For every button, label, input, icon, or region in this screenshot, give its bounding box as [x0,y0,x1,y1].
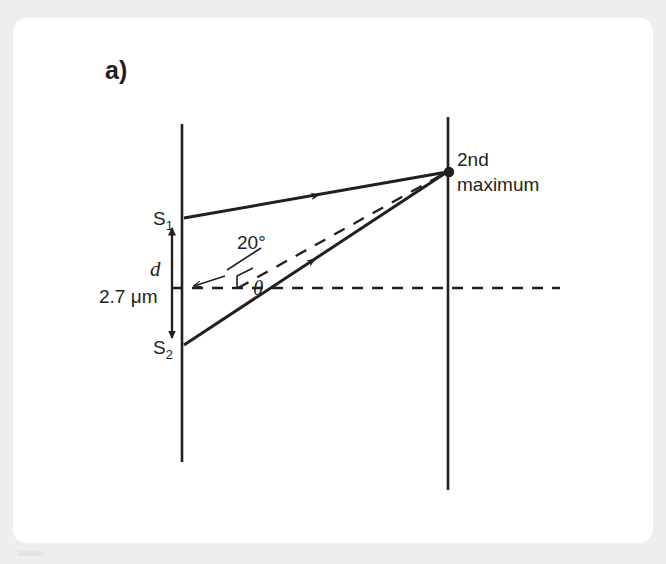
angle-value-label: 20° [237,232,266,253]
separation-symbol-label: d [150,257,161,281]
maximum-label-line-2: maximum [457,174,539,195]
page-edge-artifact [18,551,44,556]
ray-from-source-2 [184,172,447,345]
source-1-label: S1 [153,208,173,233]
separation-value-label: 2.7 μm [99,286,157,307]
page-background: a) S1 [0,0,666,564]
maximum-label-line-1: 2nd [457,149,489,170]
physics-diagram: a) S1 [13,18,653,543]
axis-leader-arrow [194,276,225,286]
angle-symbol-label: θ [253,276,263,300]
panel-label: a) [105,56,127,84]
maximum-point-dot [444,167,454,177]
figure-card: a) S1 [13,18,653,543]
ray-from-source-1 [184,172,447,218]
source-2-label: S2 [153,337,173,362]
